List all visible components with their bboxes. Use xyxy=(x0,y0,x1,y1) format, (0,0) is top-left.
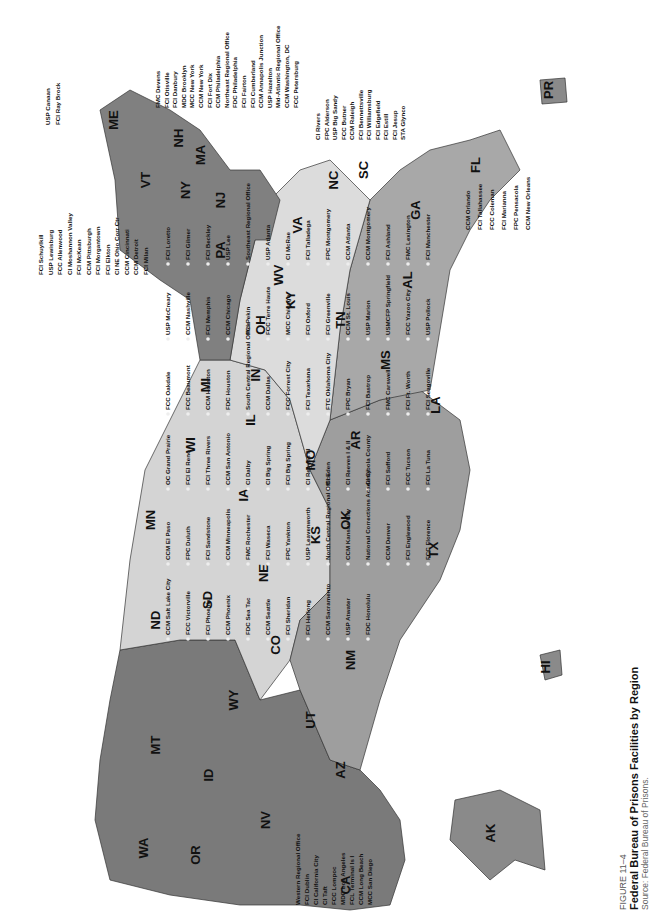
facility-label: CI Big Spring xyxy=(264,446,271,485)
state-label: MT xyxy=(148,736,163,755)
facility-label: FCC Forrest City xyxy=(284,360,291,410)
facility-label: USP Hazelton xyxy=(266,68,273,108)
facility-dot xyxy=(206,487,210,491)
facility-dot xyxy=(226,562,230,566)
facility-label: National Corrections Academy xyxy=(364,470,371,560)
facility-label: USP Canaan xyxy=(44,88,51,125)
facility-dot xyxy=(346,262,350,266)
facility-label: FPC Yankton xyxy=(284,522,291,560)
facility-dot xyxy=(266,337,270,341)
figure-title: Federal Bureau of Prisons Facilities by … xyxy=(628,667,640,910)
facility-dot xyxy=(346,337,350,341)
facility-label: FCC Victorville xyxy=(184,591,191,635)
facility-label: CCM St. Louis xyxy=(344,293,351,335)
facility-dot xyxy=(326,337,330,341)
state-label: MN xyxy=(143,510,158,530)
facility-label: FCI Safford xyxy=(384,451,391,485)
facility-label: North Central Regional Office xyxy=(324,473,331,560)
facility-label: USP Lee xyxy=(224,234,231,260)
facility-label: FCI McKean xyxy=(75,239,82,275)
state-label: NJ xyxy=(213,192,228,209)
facility-label: CCM Raleigh xyxy=(348,102,355,140)
facility-dot xyxy=(266,562,270,566)
facility-dot xyxy=(286,262,290,266)
facility-dot xyxy=(386,562,390,566)
facility-label: FDC Honolulu xyxy=(364,594,371,635)
facility-dot xyxy=(226,637,230,641)
facility-dot xyxy=(166,562,170,566)
facility-dot xyxy=(346,412,350,416)
facility-label: FCI Morgantown xyxy=(94,226,101,275)
facility-label: FPC Bryan xyxy=(344,378,351,410)
facility-label: FCI El Reno xyxy=(184,450,191,485)
facility-label: CI Moshannon Valley xyxy=(66,213,73,275)
figure-label: FIGURE 11–4 xyxy=(618,667,628,910)
facility-dot xyxy=(386,337,390,341)
facility-label: CI Dalby xyxy=(244,460,251,485)
facility-dot xyxy=(206,262,210,266)
facility-dot xyxy=(386,262,390,266)
state-label: AK xyxy=(483,823,498,842)
facility-label: CI Reeves III xyxy=(304,448,311,485)
facility-label: USP Pollock xyxy=(424,298,431,335)
facility-dot xyxy=(426,487,430,491)
facility-dot xyxy=(306,487,310,491)
facility-label: FCI Ray Brock xyxy=(54,82,61,125)
facility-label: FCI Estill xyxy=(382,113,389,140)
facility-label: FCI Memphis xyxy=(204,296,211,335)
facility-dot xyxy=(226,337,230,341)
facility-label: FCI Schuylkill xyxy=(37,234,44,275)
facility-dot xyxy=(326,262,330,266)
facility-dot xyxy=(206,412,210,416)
facility-dot xyxy=(226,487,230,491)
facility-label: CCM Washington, DC xyxy=(283,44,290,108)
figure-source: Source: Federal Bureau of Prisons. xyxy=(640,667,650,910)
facility-dot xyxy=(206,637,210,641)
facility-label: USP Big Sandy xyxy=(331,95,338,140)
facility-label: MDC Los Angeles xyxy=(339,852,346,905)
facility-label: FCI Ashland xyxy=(384,224,391,260)
facility-label: FCI Phoenix xyxy=(204,599,211,635)
state-label: UT xyxy=(303,711,318,728)
facility-label: FCC Butner xyxy=(340,105,347,140)
facility-dot xyxy=(366,637,370,641)
facility-label: OC Grand Prairie xyxy=(164,434,171,485)
facility-dot xyxy=(166,487,170,491)
facility-dot xyxy=(266,412,270,416)
facility-label: FTC Oklahoma City xyxy=(324,352,331,410)
facility-dot xyxy=(306,562,310,566)
facility-label: USP Marion xyxy=(364,300,371,335)
facility-dot xyxy=(286,337,290,341)
facility-dot xyxy=(206,562,210,566)
facility-label: CCM Seattle xyxy=(264,598,271,635)
facility-dot xyxy=(286,637,290,641)
facility-dot xyxy=(386,487,390,491)
facility-dot xyxy=(366,562,370,566)
state-label: NV xyxy=(258,811,273,829)
facility-label: FMC Rochester xyxy=(244,514,251,560)
facility-label: Western Regional Office xyxy=(294,833,301,905)
state-label: PR xyxy=(541,80,556,99)
facility-dot xyxy=(166,262,170,266)
facility-label: FCI La Tuna xyxy=(424,449,431,485)
facility-label: CCM Nashville xyxy=(184,291,191,335)
facility-label: CCM Sacramento xyxy=(324,584,331,635)
facility-label: FCI Three Rivers xyxy=(204,435,211,485)
facility-dot xyxy=(386,412,390,416)
facility-dot xyxy=(306,412,310,416)
facility-dot xyxy=(206,337,210,341)
facility-label: FDC Houston xyxy=(224,370,231,410)
facility-label: CCM Phoenix xyxy=(224,595,231,635)
facility-dot xyxy=(246,412,250,416)
facility-label: CI Rivers xyxy=(314,113,321,140)
facility-label: FCI Englewood xyxy=(404,515,411,560)
facility-label: FCI Cumberland xyxy=(249,60,256,108)
facility-label: FCI Milan xyxy=(142,247,149,275)
state-label: CO xyxy=(268,635,283,655)
facility-label: CCM Orlando xyxy=(464,190,471,230)
facility-dot xyxy=(426,562,430,566)
facility-label: USP Lewisburg xyxy=(47,230,54,275)
facility-label: CCM Kansas City xyxy=(344,508,351,560)
facility-label: CI McRae xyxy=(284,232,291,260)
facility-dot xyxy=(326,637,330,641)
